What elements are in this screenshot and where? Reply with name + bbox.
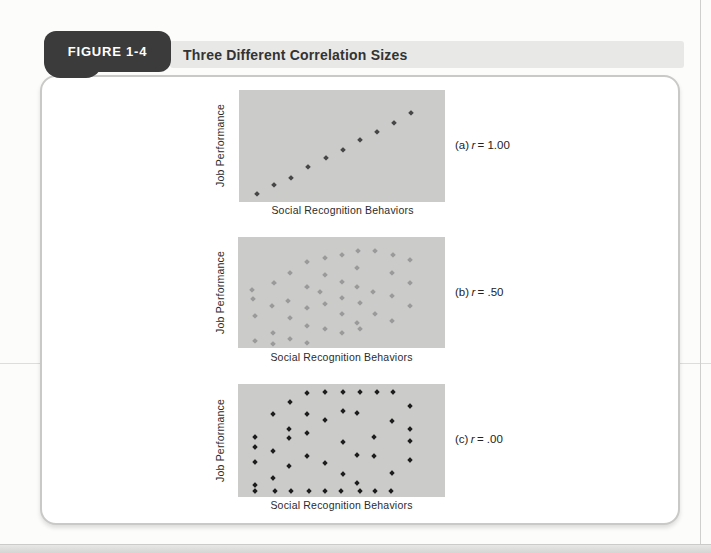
scatter-point — [357, 488, 363, 494]
scatter-point — [270, 341, 275, 346]
scatter-point — [354, 452, 360, 458]
scatter-point — [286, 435, 292, 441]
y-axis-label-b: Job Performance — [205, 237, 235, 348]
scatter-point — [304, 340, 309, 345]
scatter-point — [408, 280, 413, 285]
scatter-point — [339, 311, 344, 316]
scatter-point — [270, 330, 275, 335]
scatter-point — [252, 482, 258, 488]
scatter-point — [408, 258, 413, 263]
scatter-point — [270, 448, 276, 454]
caption-b-variable: r — [471, 286, 475, 298]
caption-b-value: = .50 — [478, 286, 504, 298]
scatter-point — [288, 175, 293, 180]
caption-c-prefix: (c) — [455, 433, 468, 445]
scatter-point — [252, 488, 258, 494]
scatter-point — [250, 287, 255, 292]
scatter-point — [354, 410, 360, 416]
scatter-point — [252, 434, 258, 440]
scatter-point — [340, 408, 346, 414]
figure-title: Three Different Correlation Sizes — [170, 47, 407, 63]
scatter-point — [317, 289, 322, 294]
scanned-textbook-figure-page: Three Different Correlation Sizes FIGURE… — [0, 0, 711, 553]
scatter-point — [340, 389, 346, 395]
correlation-caption-c: (c) r = .00 — [455, 433, 565, 445]
scatter-point — [304, 390, 310, 396]
caption-a-variable: r — [471, 139, 475, 151]
scatter-point — [339, 295, 344, 300]
scatter-point — [252, 459, 258, 465]
scatter-point — [407, 426, 413, 432]
scatter-point — [390, 270, 395, 275]
scatter-point — [304, 260, 309, 265]
scatter-point — [287, 270, 292, 275]
scatter-point — [355, 266, 360, 271]
scatter-point — [272, 280, 277, 285]
scatter-point — [286, 426, 292, 432]
scatter-point — [270, 475, 276, 481]
scatter-point — [388, 488, 394, 494]
figure-number-label: FIGURE 1-4 — [68, 44, 148, 59]
scatter-point — [286, 298, 291, 303]
scatter-point — [370, 289, 375, 294]
scatter-point — [341, 147, 346, 152]
scatter-point — [375, 129, 380, 134]
figure-panel: Job Performance Social Recognition Behav… — [40, 75, 680, 525]
scatter-point — [250, 296, 255, 301]
scatter-point — [272, 183, 277, 188]
scatter-point — [355, 284, 360, 289]
x-axis-label-b: Social Recognition Behaviors — [238, 351, 445, 363]
scatter-point — [391, 253, 396, 258]
scatter-point — [288, 488, 294, 494]
scatter-point — [322, 488, 328, 494]
scatter-point — [287, 399, 293, 405]
scatter-point — [389, 418, 395, 424]
scan-artifact-page-edge-line — [700, 0, 701, 553]
scatter-point — [391, 120, 396, 125]
caption-a-value: = 1.00 — [478, 139, 510, 151]
scatter-point — [389, 470, 395, 476]
scatter-point — [304, 430, 310, 436]
scatter-point — [357, 326, 362, 331]
scatter-point — [371, 434, 377, 440]
scatter-point — [371, 453, 377, 459]
scatter-point — [390, 293, 395, 298]
scatter-point — [252, 313, 257, 318]
scatter-point — [304, 323, 309, 328]
scatter-point — [322, 389, 328, 395]
y-axis-label-a: Job Performance — [205, 90, 235, 202]
correlation-caption-b: (b) r = .50 — [455, 286, 565, 298]
figure-title-bar: Three Different Correlation Sizes — [170, 41, 684, 68]
caption-c-variable: r — [471, 433, 475, 445]
scatter-point — [254, 191, 259, 196]
scatter-point — [407, 457, 413, 463]
scatter-point — [306, 488, 312, 494]
scatter-plot-c — [238, 384, 445, 497]
scatter-point — [339, 279, 344, 284]
figure-number-tab: FIGURE 1-4 — [44, 31, 171, 72]
correlation-caption-a: (a) r = 1.00 — [455, 139, 565, 151]
scatter-point — [322, 272, 327, 277]
scatter-point — [408, 303, 413, 308]
scatter-point — [373, 248, 378, 253]
scan-artifact-bottom-strip — [0, 544, 711, 553]
scatter-point — [339, 330, 344, 335]
scatter-point — [372, 488, 378, 494]
scatter-plot-a — [239, 90, 445, 202]
scatter-point — [322, 460, 328, 466]
scatter-point — [252, 338, 257, 343]
scatter-plot-b — [238, 237, 445, 348]
scatter-point — [357, 137, 362, 142]
scatter-point — [322, 326, 327, 331]
scatter-point — [286, 463, 292, 469]
scatter-point — [270, 411, 276, 417]
scatter-point — [339, 253, 344, 258]
scatter-point — [287, 315, 292, 320]
scatter-point — [354, 480, 360, 486]
caption-c-value: = .00 — [477, 433, 503, 445]
scatter-point — [269, 303, 274, 308]
scatter-point — [409, 110, 414, 115]
scatter-point — [407, 438, 413, 444]
scatter-point — [390, 389, 396, 395]
scatter-point — [306, 164, 311, 169]
